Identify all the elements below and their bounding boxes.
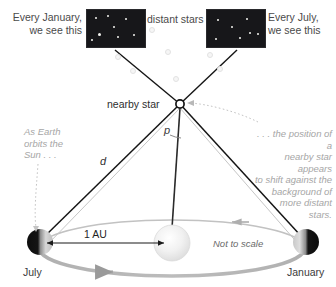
star-dot [239, 37, 241, 39]
label-every-july-we-see-this: Every July, we see this [268, 11, 336, 37]
sightline-star-to-january-box [115, 50, 180, 104]
star-dot [95, 17, 98, 20]
star-dot [133, 34, 136, 37]
annotation-position-shift: . . . the position of a nearby star appe… [252, 128, 332, 220]
label-nearby-star: nearby star [107, 98, 160, 110]
annotation-as-earth-orbits-sun: As Earth orbits the Sun . . . [24, 126, 90, 161]
leader-position-shift-arrowhead [187, 100, 194, 106]
star-dot [217, 19, 220, 22]
leader-position-shift [190, 103, 258, 122]
star-dot [246, 18, 249, 21]
star-dot [98, 33, 101, 36]
starfield-july [206, 9, 266, 48]
star-dot [231, 26, 234, 29]
label-every-january-we-see-this: Every January, we see this [2, 11, 82, 37]
star-dot [125, 18, 128, 21]
star-dot [113, 26, 115, 28]
label-one-au: 1 AU [84, 228, 107, 240]
star-dot [107, 15, 109, 17]
star-dot [117, 36, 120, 39]
nearby-star-marker [176, 100, 184, 108]
starfield-january [86, 9, 146, 48]
label-distant-stars: distant stars [147, 13, 204, 25]
label-not-to-scale: Not to scale [213, 238, 263, 249]
label-earth-july: July [23, 266, 42, 278]
sightline-july-earth-to-star [45, 104, 180, 236]
sightline-star-to-july-box [180, 50, 237, 104]
label-parallax-angle-p: p [164, 124, 170, 136]
parallax-diagram: Every January, we see this Every July, w… [0, 0, 336, 287]
star-dot [257, 33, 259, 35]
parallax-angle-arc [170, 135, 181, 138]
earth-july-body [27, 229, 53, 255]
leader-as-earth-orbits [35, 164, 38, 228]
star-dot [249, 32, 252, 35]
label-earth-january: January [287, 266, 324, 278]
star-dot [215, 38, 218, 41]
earth-january-body [293, 229, 319, 255]
star-dot [91, 39, 93, 41]
label-distance-d: d [100, 155, 106, 167]
star-to-sun-axis [172, 108, 180, 228]
